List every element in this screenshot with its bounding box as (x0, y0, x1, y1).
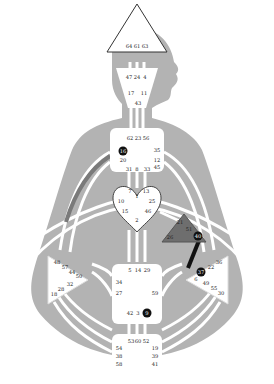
gate-label: 13 (143, 188, 150, 194)
gate-label: 14 (135, 267, 142, 273)
gate-label: 52 (143, 338, 150, 344)
gate-label: 59 (152, 290, 159, 296)
gate-label: 54 (116, 345, 123, 351)
gate-label: 24 (134, 74, 141, 80)
gate-label: 6 (194, 276, 197, 282)
gate-label: 36 (216, 259, 223, 265)
gate-label: 34 (116, 279, 123, 285)
gate-label: 5 (128, 267, 131, 273)
gate-label: 7 (128, 188, 131, 194)
gate-label: 60 (135, 338, 142, 344)
gate-label: 32 (67, 281, 74, 287)
gate-label: 23 (135, 135, 142, 141)
gate-label: 12 (154, 157, 161, 163)
gate-label: 8 (135, 166, 138, 172)
gate-label: 1 (135, 193, 138, 199)
gate-label: 29 (144, 267, 151, 273)
gate-label: 40 (195, 233, 202, 239)
gate-label: 15 (122, 208, 129, 214)
gate-label: 26 (167, 234, 174, 240)
gate-label: 49 (203, 280, 210, 286)
gate-label: 31 (126, 166, 133, 172)
gate-label: 55 (211, 285, 218, 291)
gate-label: 45 (154, 164, 161, 170)
gate-label: 30 (218, 290, 225, 296)
gate-label: 63 (142, 43, 149, 49)
gate-label: 48 (54, 259, 61, 265)
gate-label: 9 (145, 310, 148, 316)
gate-label: 37 (198, 269, 205, 275)
gate-label: 62 (127, 135, 134, 141)
gate-label: 3 (136, 310, 139, 316)
gate-label: 41 (152, 361, 159, 367)
gate-label: 39 (152, 353, 159, 359)
gate-label: 16 (120, 148, 127, 154)
gate-label: 35 (154, 147, 161, 153)
gate-label: 21 (177, 219, 184, 225)
gate-label: 42 (127, 310, 134, 316)
gate-label: 2 (135, 217, 138, 223)
gate-label: 27 (116, 290, 123, 296)
gate-label: 22 (208, 264, 215, 270)
bodygraph: 64 61 63 47 24 4 17 11 43 62 23 56 16 35… (0, 0, 274, 384)
gate-label: 11 (141, 90, 148, 96)
gate-label: 19 (152, 345, 159, 351)
gate-label: 57 (62, 264, 69, 270)
gate-label: 46 (145, 208, 152, 214)
gate-label: 51 (186, 226, 193, 232)
gate-label: 18 (51, 291, 58, 297)
gate-label: 28 (58, 286, 65, 292)
gate-label: 64 (126, 43, 133, 49)
gate-label: 33 (144, 166, 151, 172)
gate-label: 50 (76, 273, 83, 279)
gate-label: 47 (126, 74, 133, 80)
gate-label: 56 (143, 135, 150, 141)
gate-label: 61 (134, 43, 141, 49)
gate-label: 17 (128, 90, 135, 96)
gate-label: 10 (118, 198, 125, 204)
gate-label: 38 (116, 353, 123, 359)
gate-label: 53 (128, 338, 135, 344)
gate-label: 58 (116, 361, 123, 367)
gate-label: 43 (135, 100, 142, 106)
gate-label: 25 (149, 198, 156, 204)
gate-label: 20 (120, 157, 127, 163)
